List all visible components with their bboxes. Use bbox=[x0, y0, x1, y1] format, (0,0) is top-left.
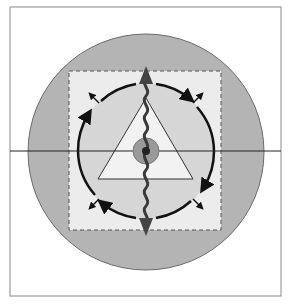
diagram-canvas bbox=[0, 0, 292, 307]
center-dot bbox=[142, 147, 150, 155]
